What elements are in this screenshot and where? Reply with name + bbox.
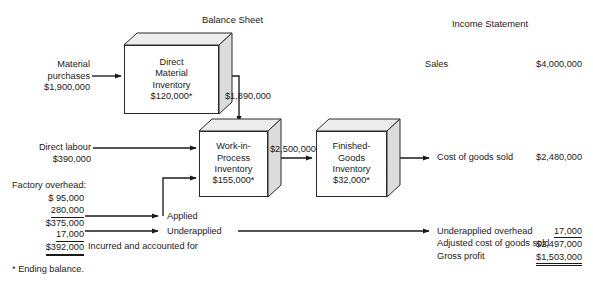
- wip-line-0: Work-in-: [216, 141, 251, 152]
- fg-line-1: Goods: [338, 153, 365, 164]
- overhead-row-3: 17,000: [0, 229, 84, 242]
- wip-line-1: Process: [217, 153, 250, 164]
- flow-label-dm-to-wip: $1,890,000: [225, 91, 271, 103]
- underapplied-label: Underapplied: [167, 226, 222, 238]
- summary-row-1: $2,497,000: [487, 238, 582, 250]
- heading-income-statement: Income Statement: [452, 18, 528, 29]
- summary-amount-2: $1,503,000: [536, 251, 582, 264]
- dm-line-2: Inventory: [153, 80, 191, 91]
- direct-labour-amount: $390,000: [0, 154, 91, 166]
- summary-row-0: 17,000: [487, 225, 582, 238]
- overhead-value-1: 280,000: [51, 205, 84, 218]
- overhead-row-1: 280,000: [0, 205, 84, 218]
- material-purchases-amount: $1,900,000: [0, 82, 90, 94]
- material-purchases-label: Material purchases $1,900,000: [0, 59, 90, 94]
- factory-overhead-heading: Factory overhead:: [12, 180, 86, 192]
- dm-amount: $120,000*: [151, 91, 193, 102]
- direct-labour-line1: Direct labour: [0, 142, 91, 154]
- overhead-value-0: $ 95,000: [48, 193, 84, 203]
- summary-amount-1: $2,497,000: [536, 239, 582, 249]
- overhead-row-0: $ 95,000: [0, 193, 84, 205]
- cost-flow-diagram: Balance Sheet Income Statement Material …: [0, 0, 593, 286]
- cost-of-goods-sold-amount: $2,480,000: [487, 152, 582, 164]
- incurred-accounted-label: Incurred and accounted for: [88, 241, 198, 253]
- wip-amount: $155,000*: [213, 175, 255, 186]
- income-summary-amounts: 17,000 $2,497,000 $1,503,000: [487, 225, 582, 264]
- sales-amount: $4,000,000: [487, 59, 582, 71]
- dm-line-1: Material: [155, 68, 188, 79]
- overhead-value-3: 17,000: [56, 229, 84, 242]
- direct-labour-label: Direct labour $390,000: [0, 142, 91, 165]
- wip-line-2: Inventory: [215, 164, 253, 175]
- sales-label: Sales: [425, 59, 448, 71]
- box-face-direct-material: Direct Material Inventory $120,000*: [124, 45, 219, 114]
- box-face-work-in-process: Work-in- Process Inventory $155,000*: [199, 131, 268, 197]
- overhead-row-2: $375,000: [0, 218, 84, 230]
- factory-overhead-figures: $ 95,000 280,000 $375,000 17,000 $392,00…: [0, 193, 84, 255]
- material-purchases-line2: purchases: [0, 71, 90, 83]
- fg-amount: $32,000*: [333, 175, 370, 186]
- applied-label: Applied: [167, 211, 198, 223]
- summary-row-2: $1,503,000: [487, 251, 582, 264]
- ending-balance-footnote: * Ending balance.: [12, 264, 84, 274]
- summary-amount-0: 17,000: [554, 225, 582, 238]
- flow-label-wip-to-fg: $2,500,000: [270, 144, 316, 156]
- overhead-row-4: $392,000: [0, 242, 84, 255]
- material-purchases-line1: Material: [0, 59, 90, 71]
- overhead-value-2: $375,000: [46, 218, 84, 228]
- overhead-value-4: $392,000: [46, 242, 84, 255]
- dm-line-0: Direct: [160, 57, 184, 68]
- fg-line-2: Inventory: [333, 164, 371, 175]
- heading-balance-sheet: Balance Sheet: [202, 14, 263, 25]
- fg-line-0: Finished-: [333, 141, 371, 152]
- box-face-finished-goods: Finished- Goods Inventory $32,000*: [316, 131, 387, 197]
